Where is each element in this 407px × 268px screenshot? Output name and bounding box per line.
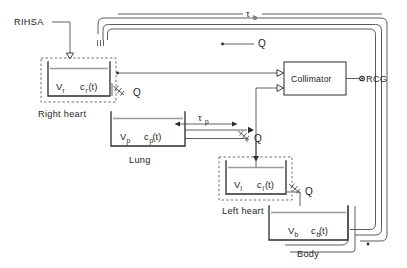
lung-to-left-heart-pipe bbox=[185, 127, 254, 142]
body-compartment bbox=[269, 206, 348, 240]
lung-conc-arg: (t) bbox=[153, 131, 162, 142]
right-heart-variables: V r c r (t) bbox=[56, 81, 97, 94]
lung-volume-subscript: p bbox=[127, 137, 131, 145]
pipe-entry-ticks bbox=[98, 40, 104, 46]
diagram-root: RIHSA τ b τ p Q Q Q Q Collimator RCG V r… bbox=[0, 0, 407, 268]
right-heart-conc-symbol: c bbox=[80, 81, 85, 92]
right-heart-volume-subscript: r bbox=[63, 87, 66, 94]
label-tau-b: τ b bbox=[118, 9, 382, 21]
left-heart-variables: V l c l (t) bbox=[234, 179, 274, 192]
label-body: Body bbox=[297, 249, 319, 259]
tau-b-symbol: τ bbox=[246, 9, 250, 19]
label-flow-lung: Q bbox=[254, 133, 262, 144]
left-heart-compartment bbox=[219, 157, 292, 200]
label-lung: Lung bbox=[129, 155, 151, 165]
flow-label-leader-top bbox=[221, 43, 254, 46]
left-heart-volume-subscript: l bbox=[241, 185, 243, 192]
tau-p-subscript: p bbox=[205, 118, 209, 126]
lung-conc-symbol: c bbox=[144, 131, 149, 142]
rihsa-injection-path bbox=[52, 22, 74, 59]
tau-p-symbol: τ bbox=[198, 113, 202, 123]
body-conc-arg: (t) bbox=[319, 225, 328, 236]
flow-restrictor-lung-icon bbox=[238, 131, 249, 141]
tau-b-subscript: b bbox=[253, 14, 257, 21]
label-flow-right-heart: Q bbox=[133, 87, 141, 98]
label-right-heart: Right heart bbox=[38, 109, 86, 119]
label-collimator: Collimator bbox=[291, 74, 332, 84]
lung-variables: V p c p (t) bbox=[120, 131, 161, 145]
label-left-heart: Left heart bbox=[222, 206, 264, 216]
left-heart-to-collimator bbox=[256, 85, 284, 168]
label-rihsa: RIHSA bbox=[14, 17, 44, 27]
body-conc-symbol: c bbox=[311, 225, 316, 236]
body-volume-subscript: b bbox=[295, 231, 299, 238]
inflow-to-left-heart bbox=[253, 142, 259, 162]
right-heart-compartment bbox=[41, 58, 116, 102]
left-heart-conc-symbol: c bbox=[257, 179, 262, 190]
collimator-output-line bbox=[346, 76, 364, 81]
left-heart-conc-arg: (t) bbox=[265, 179, 274, 190]
left-heart-to-body bbox=[287, 192, 300, 206]
return-path-inner bbox=[108, 29, 376, 230]
right-heart-conc-arg: (t) bbox=[89, 81, 98, 92]
label-flow-left-heart: Q bbox=[305, 186, 313, 197]
flow-restrictor-right-heart-icon bbox=[113, 86, 124, 96]
right-heart-to-collimator bbox=[116, 70, 283, 77]
label-flow-top: Q bbox=[258, 38, 266, 49]
compartment-model-canvas: RIHSA τ b τ p Q Q Q Q Collimator RCG V r… bbox=[0, 0, 407, 268]
body-variables: V b c b (t) bbox=[288, 225, 328, 238]
label-rcg: RCG bbox=[366, 74, 387, 84]
